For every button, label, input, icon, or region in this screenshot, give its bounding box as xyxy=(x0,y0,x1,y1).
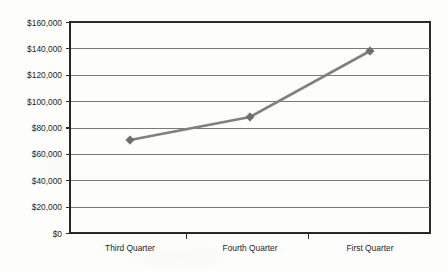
x-axis-labels: Third QuarterFourth QuarterFirst Quarter xyxy=(105,243,394,253)
y-tick-label: $120,000 xyxy=(27,70,62,80)
y-tick-label: $100,000 xyxy=(27,97,62,107)
y-tick-label: $80,000 xyxy=(32,123,63,133)
y-axis-ticks: $160,000$140,000$120,000$100,000$80,000$… xyxy=(27,18,70,239)
y-tick-label: $20,000 xyxy=(32,202,63,212)
y-tick-label: $60,000 xyxy=(32,149,63,159)
x-tick-label: First Quarter xyxy=(347,243,394,253)
y-tick-label: $140,000 xyxy=(27,44,62,54)
x-tick-label: Fourth Quarter xyxy=(223,243,278,253)
chart-container: $160,000$140,000$120,000$100,000$80,000$… xyxy=(0,0,448,271)
y-tick-label: $40,000 xyxy=(32,176,63,186)
y-tick-label: $160,000 xyxy=(27,18,62,28)
plot-area-border xyxy=(70,22,430,233)
line-chart: $160,000$140,000$120,000$100,000$80,000$… xyxy=(0,0,448,271)
x-tick-label: Third Quarter xyxy=(105,243,155,253)
y-tick-label: $0 xyxy=(53,229,63,239)
